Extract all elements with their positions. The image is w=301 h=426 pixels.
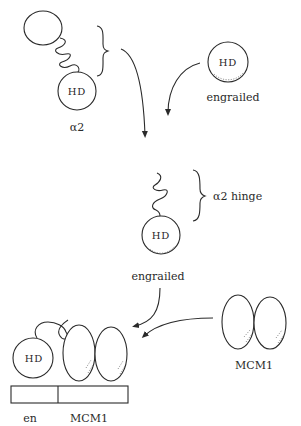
engrailed-protein: HD engrailed <box>206 42 259 104</box>
arrow-engrailed-to-middle <box>168 63 200 113</box>
dna-site <box>11 386 128 403</box>
chimera-hinge-linker <box>153 173 168 216</box>
alpha2-hinge-brace <box>97 26 108 76</box>
alpha2-protein: HD α2 <box>24 11 108 134</box>
mcm1-subunit-right <box>254 297 286 349</box>
complex-mcm1-right <box>95 327 127 381</box>
en-site-label: en <box>23 412 37 425</box>
arrow-alpha2-to-middle <box>121 49 145 135</box>
mcm1-dimer: MCM1 <box>222 295 286 372</box>
ternary-complex: HD en MCM1 <box>11 320 128 425</box>
complex-mcm1-left <box>63 325 95 381</box>
engrailed-label: engrailed <box>206 91 259 104</box>
mcm1-subunit-left <box>222 295 254 349</box>
arrow-chimera-to-complex <box>135 288 160 326</box>
alpha2-hd-label: HD <box>68 86 87 97</box>
complex-hd-label: HD <box>25 353 44 364</box>
arrow-mcm1-to-complex <box>144 318 213 336</box>
alpha2-hinge-linker <box>56 38 79 74</box>
hinge-label: α2 hinge <box>213 190 262 203</box>
chimera-protein: HD α2 hinge engrailed <box>131 170 262 283</box>
engrailed-hd-label: HD <box>219 57 238 68</box>
alpha2-n-terminal-domain <box>24 11 62 45</box>
mcm1-label: MCM1 <box>235 359 273 372</box>
chimera-label: engrailed <box>131 270 184 283</box>
chimera-hinge-brace <box>193 170 205 221</box>
mcm1-site-label: MCM1 <box>70 412 108 425</box>
complex-hinge-linker <box>35 320 68 339</box>
alpha2-label: α2 <box>70 121 84 134</box>
chimera-hd-label: HD <box>152 230 171 241</box>
